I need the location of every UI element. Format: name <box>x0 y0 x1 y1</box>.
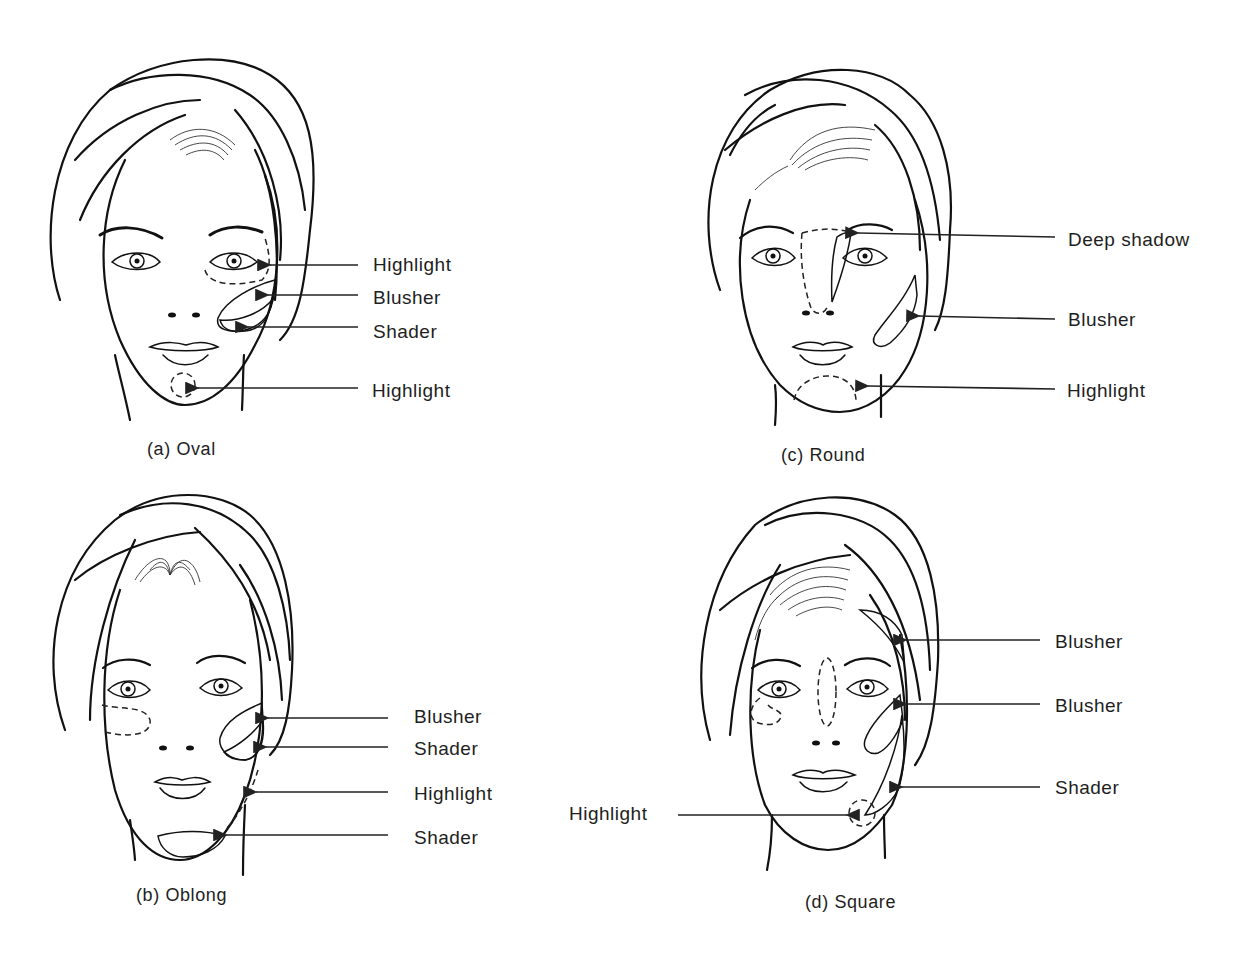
callout-label: Blusher <box>1055 632 1123 651</box>
panel-oval: Highlight Blusher Shader Highlight (a) O… <box>0 0 520 470</box>
callout-label: Highlight <box>414 784 492 803</box>
panel-oblong: Blusher Shader Highlight Shader (b) Oblo… <box>0 470 540 920</box>
callout-label: Shader <box>1055 778 1119 797</box>
panel-round: Deep shadow Blusher Highlight (c) Round <box>680 40 1251 480</box>
callout-label: Blusher <box>414 707 482 726</box>
round-face-illustration <box>680 40 1251 480</box>
callout-label: Shader <box>414 828 478 847</box>
panel-caption: (b) Oblong <box>136 886 227 904</box>
callout-label: Blusher <box>1068 310 1136 329</box>
panel-caption: (d) Square <box>805 893 896 911</box>
callout-label: Shader <box>373 322 437 341</box>
callout-label: Deep shadow <box>1068 230 1190 249</box>
callout-label: Blusher <box>1055 696 1123 715</box>
callout-label: Shader <box>414 739 478 758</box>
callout-label: Highlight <box>372 381 450 400</box>
panel-square: Blusher Blusher Shader Highlight (d) Squ… <box>560 470 1160 930</box>
panel-caption: (a) Oval <box>147 440 216 458</box>
callout-label: Highlight <box>1067 381 1145 400</box>
oblong-face-illustration <box>0 470 540 920</box>
callout-label: Highlight <box>373 255 451 274</box>
panel-caption: (c) Round <box>781 446 865 464</box>
callout-label: Highlight <box>569 804 647 823</box>
callout-label: Blusher <box>373 288 441 307</box>
